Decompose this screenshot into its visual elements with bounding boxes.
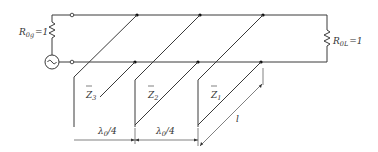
stub-1: Z1 bbox=[198, 15, 263, 127]
source-resistor-icon bbox=[49, 22, 55, 38]
stub-3-label: Z3 bbox=[85, 90, 96, 102]
load-branch: R0L=1 bbox=[324, 15, 363, 62]
stub-2-label: Z2 bbox=[147, 90, 158, 102]
input-terminal-bottom bbox=[70, 60, 74, 64]
stub-3: Z3 bbox=[74, 15, 137, 127]
spacing-label-2: λ0/4 bbox=[155, 126, 175, 138]
stub-length-label: l bbox=[236, 114, 239, 124]
spacing-label-1: λ0/4 bbox=[97, 126, 117, 138]
source-resistor-label: R0g=1 bbox=[18, 27, 48, 39]
spacing-dimensions: λ0/4 λ0/4 bbox=[74, 126, 198, 146]
main-line bbox=[52, 15, 327, 62]
stub-1-label: Z1 bbox=[210, 90, 221, 102]
junctions bbox=[133, 13, 264, 63]
load-resistor-icon bbox=[324, 30, 330, 46]
source-branch: R0g=1 bbox=[18, 13, 74, 69]
transmission-line-stub-diagram: R0g=1 R0L=1 Z3 Z2 Z1 bbox=[0, 0, 378, 152]
input-terminal-top bbox=[70, 13, 74, 17]
stub-2: Z2 bbox=[135, 15, 200, 127]
stub-length-dimension: l bbox=[200, 68, 263, 146]
sine-wave-icon bbox=[48, 60, 57, 64]
load-resistor-label: R0L=1 bbox=[332, 36, 363, 48]
